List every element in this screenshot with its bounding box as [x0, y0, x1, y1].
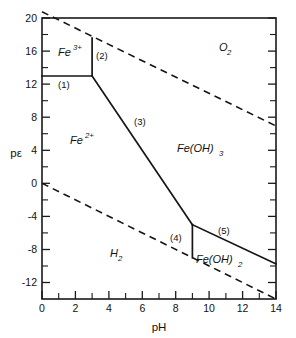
- x-tick-label-6: 6: [139, 302, 145, 314]
- y-tick-label-0: 0: [31, 177, 37, 189]
- region-label-Fe2-superscript: 2+: [84, 131, 94, 140]
- y-tick-label-20: 20: [25, 12, 37, 24]
- pourbaix-diagram-svg: 0 2 4 6 8 10 12 14 20 16 12 8 4 0 -4 -8 …: [0, 0, 296, 338]
- y-tick-label-12: 12: [25, 78, 37, 90]
- y-tick-label-4: 4: [31, 144, 37, 156]
- x-tick-label-14: 14: [270, 302, 282, 314]
- y-tick-label-16: 16: [25, 45, 37, 57]
- water-oxidation-stability-line: [42, 12, 276, 126]
- water-reduction-stability-line: [42, 183, 276, 299]
- line-label-1: (1): [58, 79, 70, 90]
- pourbaix-diagram-figure: 0 2 4 6 8 10 12 14 20 16 12 8 4 0 -4 -8 …: [0, 0, 296, 338]
- y-axis-ticks: [42, 18, 50, 283]
- region-label-O2: O 2: [219, 41, 232, 57]
- x-tick-label-2: 2: [72, 302, 78, 314]
- line-label-4: (4): [170, 232, 182, 243]
- region-label-FeOH2: Fe(OH) 2: [196, 253, 243, 269]
- region-label-O2-subscript: 2: [226, 48, 232, 57]
- region-label-H2: H 2: [110, 247, 123, 263]
- region-label-Fe2: Fe 2+: [70, 131, 94, 146]
- x-tick-labels: 0 2 4 6 8 10 12 14: [39, 302, 282, 314]
- y-tick-label-8: 8: [31, 111, 37, 123]
- x-tick-label-0: 0: [39, 302, 45, 314]
- y-tick-labels: 20 16 12 8 4 0 -4 -8 -12: [22, 12, 37, 288]
- x-tick-label-8: 8: [173, 302, 179, 314]
- y-axis-title: pε: [10, 147, 22, 159]
- y-axis-right-ticks: [268, 18, 276, 283]
- x-axis-title: pH: [152, 321, 167, 333]
- y-tick-label-neg4: -4: [28, 210, 37, 222]
- region-label-H2-base: H: [110, 247, 118, 259]
- plot-frame: [42, 18, 276, 299]
- line-label-2: (2): [96, 50, 108, 61]
- region-label-FeOH3: Fe(OH) 3: [177, 142, 224, 158]
- x-tick-label-12: 12: [237, 302, 249, 314]
- region-label-Fe3: Fe 3+: [58, 43, 82, 58]
- x-tick-label-4: 4: [106, 302, 112, 314]
- region-label-H2-subscript: 2: [117, 254, 123, 263]
- region-label-FeOH3-subscript: 3: [219, 149, 224, 158]
- region-label-FeOH2-subscript: 2: [237, 260, 243, 269]
- region-label-FeOH2-base: Fe(OH): [196, 253, 233, 265]
- x-tick-label-10: 10: [203, 302, 215, 314]
- y-tick-label-neg8: -8: [28, 243, 37, 255]
- line-label-3: (3): [134, 116, 146, 127]
- region-label-Fe3-base: Fe: [58, 46, 71, 58]
- x-axis-ticks: [42, 291, 276, 299]
- y-tick-label-neg12: -12: [22, 276, 37, 288]
- line-label-5: (5): [218, 225, 230, 236]
- region-label-Fe2-base: Fe: [70, 134, 83, 146]
- region-label-Fe3-superscript: 3+: [73, 43, 82, 52]
- region-label-FeOH3-base: Fe(OH): [177, 142, 214, 154]
